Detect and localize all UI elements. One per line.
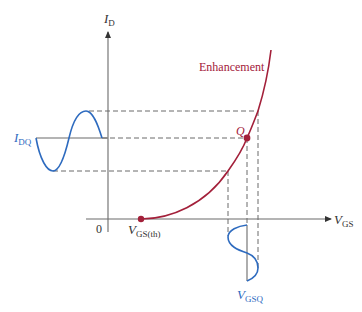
threshold-point [138, 216, 144, 222]
axes [36, 32, 331, 281]
enhancement-label: Enhancement [199, 60, 265, 74]
idq-label: IDQ [13, 130, 32, 147]
y-axis-label: ID [103, 11, 115, 28]
transfer-characteristic-diagram: ID VGS 0 VGS(th) Enhancement Q IDQ VGSQ [0, 0, 362, 312]
x-axis-label: VGS [334, 212, 353, 229]
gate-voltage-signal [228, 225, 258, 281]
origin-label: 0 [96, 222, 102, 236]
dashed-projection-lines [53, 111, 258, 268]
enhancement-curve [141, 50, 271, 219]
vgsq-label: VGSQ [237, 287, 263, 304]
threshold-label: VGS(th) [128, 222, 160, 239]
q-point-label: Q [236, 124, 245, 138]
drain-current-signal [36, 111, 102, 171]
